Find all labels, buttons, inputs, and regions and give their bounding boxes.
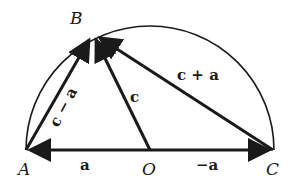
point-label-b: B: [69, 8, 83, 28]
vector-label-a: a: [80, 156, 90, 174]
vector-c-plus-a: [100, 38, 273, 150]
point-label-c: C: [266, 159, 279, 179]
point-label-o: O: [142, 159, 156, 179]
vector-c: [96, 40, 150, 150]
vector-label-c-plus-a: c + a: [177, 66, 219, 84]
vector-label-c: c: [130, 88, 139, 106]
point-label-a: A: [16, 159, 30, 179]
semicircle-vector-diagram: B A O C a −a c c − a c + a: [0, 0, 291, 179]
vector-label-minus-a: −a: [196, 156, 219, 174]
